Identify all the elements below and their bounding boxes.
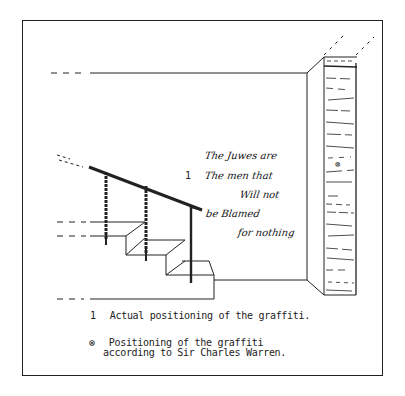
warren-position-marker-icon: ⊗ <box>335 159 340 169</box>
legend-item-warren-line2: according to Sir Charles Warren. <box>103 348 286 358</box>
ceiling-line <box>51 57 324 73</box>
graffiti-line-4: be Blamed <box>205 208 260 219</box>
graffiti-line-1: The Juwes are <box>204 150 278 161</box>
graffiti-line-5: for nothing <box>237 227 295 238</box>
legend-marker-warren-icon: ⊗ <box>89 338 103 348</box>
graffiti-position-marker: 1 <box>185 170 191 181</box>
legend-item-actual: 1 Actual positioning of the graffiti. <box>90 311 310 321</box>
legend-text-warren-2: according to Sir Charles Warren. <box>103 347 286 358</box>
legend-marker-1: 1 <box>90 311 104 321</box>
graffiti-line-3: Will not <box>239 189 280 200</box>
handrail <box>57 155 202 210</box>
legend-text-actual: Actual positioning of the graffiti. <box>110 310 310 321</box>
graffiti-line-2: The men that <box>204 170 273 181</box>
door-jamb <box>324 34 374 295</box>
